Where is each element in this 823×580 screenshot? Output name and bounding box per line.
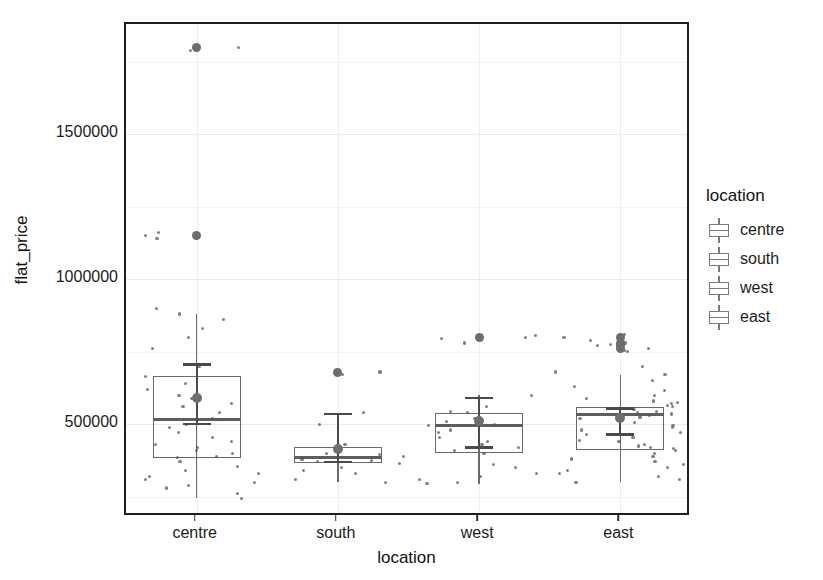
- data-point: [354, 472, 357, 475]
- data-point: [168, 426, 171, 429]
- data-point: [438, 436, 441, 439]
- legend-item-label: west: [740, 279, 773, 297]
- data-point: [456, 481, 459, 484]
- data-point: [682, 463, 685, 466]
- outlier-point: [192, 231, 201, 240]
- data-point: [535, 472, 538, 475]
- data-point: [178, 312, 181, 315]
- boxplot-key-icon: [706, 246, 732, 272]
- data-point: [240, 497, 243, 500]
- x-tick-label-east: east: [603, 524, 633, 542]
- legend-item-south[interactable]: south: [706, 245, 818, 273]
- data-point: [676, 401, 679, 404]
- data-point: [653, 394, 656, 397]
- data-point: [157, 231, 160, 234]
- data-point: [300, 457, 303, 460]
- data-point: [570, 457, 573, 460]
- data-point: [626, 350, 629, 353]
- data-point: [294, 478, 297, 481]
- data-point: [144, 375, 147, 378]
- data-point: [663, 373, 666, 376]
- data-point: [362, 411, 365, 414]
- data-point: [482, 452, 485, 455]
- data-point: [302, 469, 305, 472]
- plot-panel: [124, 22, 689, 515]
- data-point: [514, 466, 517, 469]
- data-point: [596, 344, 599, 347]
- data-point: [649, 446, 652, 449]
- x-tick-mark: [618, 515, 620, 521]
- y-tick-label: 1500000: [18, 123, 118, 141]
- data-point: [530, 394, 533, 397]
- y-tick-label: 500000: [18, 413, 118, 431]
- data-point: [678, 478, 681, 481]
- x-tick-label-south: south: [316, 524, 355, 542]
- data-point: [427, 424, 430, 427]
- gridline-major: [126, 134, 687, 135]
- data-point: [663, 389, 666, 392]
- data-point: [425, 482, 428, 485]
- data-point: [554, 370, 557, 373]
- data-point: [524, 336, 527, 339]
- data-point: [585, 397, 588, 400]
- gridline-minor: [126, 497, 687, 498]
- legend-item-label: centre: [740, 221, 784, 239]
- data-point: [485, 405, 488, 408]
- x-tick-mark: [476, 515, 478, 521]
- data-point: [378, 370, 381, 373]
- legend-item-east[interactable]: east: [706, 303, 818, 331]
- data-point: [418, 478, 421, 481]
- data-point: [155, 307, 158, 310]
- mean-ci-cap: [183, 423, 211, 426]
- data-point: [370, 459, 373, 462]
- x-tick-label-west: west: [461, 524, 494, 542]
- mean-ci-cap: [183, 363, 211, 366]
- mean-ci-south: [337, 414, 339, 462]
- legend-item-centre[interactable]: centre: [706, 216, 818, 244]
- data-point: [449, 410, 452, 413]
- data-point: [318, 423, 321, 426]
- legend-item-west[interactable]: west: [706, 274, 818, 302]
- mean-ci-cap: [606, 433, 634, 436]
- data-point: [638, 415, 641, 418]
- x-tick-mark: [194, 515, 196, 521]
- y-tick-label: 1000000: [18, 268, 118, 286]
- data-point: [585, 433, 588, 436]
- gridline-minor: [126, 352, 687, 353]
- data-point: [674, 449, 677, 452]
- data-point: [155, 237, 158, 240]
- data-point: [617, 440, 620, 443]
- boxplot-chart: flat_price 50000010000001500000 centreso…: [0, 0, 823, 580]
- data-point: [671, 426, 674, 429]
- data-point: [641, 365, 644, 368]
- mean-ci-cap: [465, 446, 493, 449]
- data-point: [666, 466, 669, 469]
- data-point: [643, 443, 646, 446]
- data-point: [573, 385, 576, 388]
- data-point: [231, 452, 234, 455]
- gridline-minor: [126, 207, 687, 208]
- legend-item-label: south: [740, 250, 779, 268]
- data-point: [652, 399, 655, 402]
- data-point: [201, 327, 204, 330]
- boxplot-key-icon: [706, 304, 732, 330]
- data-point: [151, 347, 154, 350]
- data-point: [148, 475, 151, 478]
- data-point: [566, 469, 569, 472]
- data-point: [578, 417, 581, 420]
- data-point: [257, 472, 260, 475]
- data-point: [666, 404, 669, 407]
- data-point: [562, 336, 565, 339]
- outlier-point: [475, 333, 484, 342]
- data-point: [146, 388, 149, 391]
- mean-ci-cap: [465, 397, 493, 400]
- data-point: [558, 472, 561, 475]
- data-point: [463, 341, 466, 344]
- data-point: [144, 478, 147, 481]
- data-point: [236, 465, 239, 468]
- data-point: [534, 334, 537, 337]
- data-point: [492, 463, 495, 466]
- data-point: [176, 456, 179, 459]
- gridline-major: [126, 279, 687, 280]
- data-point: [165, 486, 168, 489]
